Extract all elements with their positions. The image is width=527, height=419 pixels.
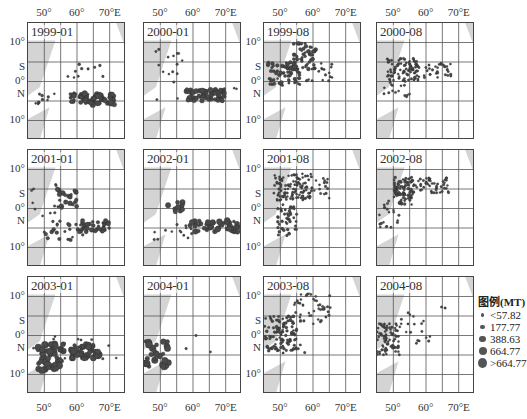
map-panel-1999-01: 1999-01 — [27, 22, 125, 139]
panel-label: 2003-01 — [31, 279, 73, 293]
y-tick-label: S — [239, 61, 261, 72]
y-tick-label: 10° — [3, 36, 25, 47]
y-tick-label: N — [239, 215, 261, 226]
land-shape — [377, 23, 474, 139]
legend-marker-icon — [478, 358, 487, 368]
x-tick-label: 70°E — [448, 401, 470, 413]
land-shape — [28, 277, 125, 393]
legend-entry: 388.63 — [478, 333, 526, 345]
y-tick-label: N — [3, 342, 25, 353]
y-tick-label: 0° — [239, 329, 261, 340]
panel-label: 2002-01 — [147, 152, 189, 166]
panel-label: 1999-08 — [267, 25, 309, 39]
legend-entry: 177.77 — [478, 321, 526, 333]
x-tick-label: 50° — [152, 6, 167, 18]
y-tick-label: S — [239, 315, 261, 326]
legend-label: 388.63 — [490, 333, 520, 345]
map-panel-2004-01: 2004-01 — [143, 276, 241, 393]
y-tick-label: N — [239, 88, 261, 99]
x-tick-label: 70°E — [99, 401, 121, 413]
y-tick-label: 0° — [3, 202, 25, 213]
y-tick-label: 10° — [239, 163, 261, 174]
panel-label: 2002-08 — [380, 152, 422, 166]
x-tick-label: 70°E — [335, 6, 357, 18]
legend-marker-icon — [480, 325, 485, 330]
legend-marker-icon — [479, 336, 485, 342]
x-tick-label: 60° — [185, 401, 200, 413]
x-tick-label: 50° — [272, 401, 287, 413]
land-shape — [144, 150, 241, 266]
x-tick-label: 60° — [418, 401, 433, 413]
panel-label: 2001-08 — [267, 152, 309, 166]
map-panel-2002-01: 2002-01 — [143, 149, 241, 266]
map-panel-2003-08: 2003-08 — [263, 276, 361, 393]
x-tick-label: 60° — [418, 6, 433, 18]
panel-label: 1999-01 — [31, 25, 73, 39]
map-panel-2001-01: 2001-01 — [27, 149, 125, 266]
y-tick-label: 0° — [3, 329, 25, 340]
legend-entry: 664.77 — [478, 345, 526, 357]
land-shape — [144, 277, 241, 393]
legend-label: <57.82 — [490, 309, 521, 321]
x-tick-label: 60° — [305, 6, 320, 18]
y-tick-label: N — [3, 88, 25, 99]
land-shape — [264, 277, 361, 393]
x-tick-label: 50° — [36, 401, 51, 413]
panel-label: 2000-08 — [380, 25, 422, 39]
panel-label: 2004-01 — [147, 279, 189, 293]
legend-label: 664.77 — [490, 345, 520, 357]
y-tick-label: 10° — [3, 114, 25, 125]
y-tick-label: 0° — [239, 75, 261, 86]
y-tick-label: 0° — [3, 75, 25, 86]
y-tick-label: S — [239, 188, 261, 199]
map-panel-2000-08: 2000-08 — [376, 22, 474, 139]
map-panel-2004-08: 2004-08 — [376, 276, 474, 393]
map-panel-2000-01: 2000-01 — [143, 22, 241, 139]
y-tick-label: S — [3, 315, 25, 326]
x-tick-label: 70°E — [335, 401, 357, 413]
x-tick-label: 50° — [36, 6, 51, 18]
legend-title: 图例(MT) — [478, 296, 526, 308]
y-tick-label: S — [3, 188, 25, 199]
legend-marker-icon — [479, 347, 487, 355]
y-tick-label: 10° — [3, 368, 25, 379]
y-tick-label: 10° — [239, 241, 261, 252]
x-tick-label: 50° — [385, 6, 400, 18]
y-tick-label: 0° — [239, 202, 261, 213]
x-tick-label: 60° — [69, 401, 84, 413]
x-tick-label: 70°E — [99, 6, 121, 18]
map-panel-2002-08: 2002-08 — [376, 149, 474, 266]
legend-label: >664.77 — [490, 357, 526, 369]
legend: 图例(MT) <57.82177.77388.63664.77>664.77 — [478, 296, 526, 369]
y-tick-label: 10° — [3, 241, 25, 252]
x-tick-label: 50° — [385, 401, 400, 413]
y-tick-label: 10° — [239, 114, 261, 125]
x-tick-label: 50° — [152, 401, 167, 413]
y-tick-label: 10° — [239, 368, 261, 379]
panel-label: 2003-08 — [267, 279, 309, 293]
y-tick-label: S — [3, 61, 25, 72]
panel-label: 2004-08 — [380, 279, 422, 293]
legend-label: 177.77 — [490, 321, 520, 333]
y-tick-label: N — [239, 342, 261, 353]
panel-label: 2000-01 — [147, 25, 189, 39]
map-panel-2001-08: 2001-08 — [263, 149, 361, 266]
legend-marker-icon — [481, 313, 484, 316]
x-tick-label: 60° — [305, 401, 320, 413]
land-shape — [377, 150, 474, 266]
legend-entry: >664.77 — [478, 357, 526, 369]
legend-entry: <57.82 — [478, 309, 526, 321]
y-tick-label: 10° — [3, 290, 25, 301]
map-panel-1999-08: 1999-08 — [263, 22, 361, 139]
land-shape — [144, 23, 241, 139]
y-tick-label: N — [3, 215, 25, 226]
panel-label: 2001-01 — [31, 152, 73, 166]
land-shape — [28, 23, 125, 139]
x-tick-label: 70°E — [215, 401, 237, 413]
x-tick-label: 60° — [69, 6, 84, 18]
x-tick-label: 70°E — [215, 6, 237, 18]
y-tick-label: 10° — [3, 163, 25, 174]
x-tick-label: 70°E — [448, 6, 470, 18]
y-tick-label: 10° — [239, 290, 261, 301]
y-tick-label: 10° — [239, 36, 261, 47]
